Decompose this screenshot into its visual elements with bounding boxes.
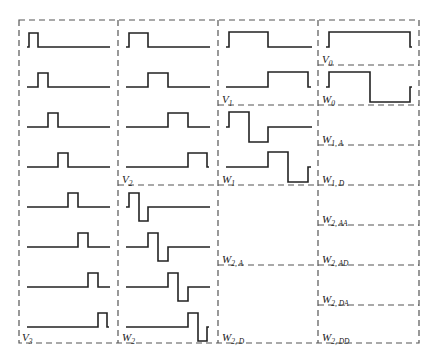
labels: V0 W0 V1 W1 W1, A W1, D V2 W2 W2, A W2, … (22, 53, 350, 346)
v0-w0-waveforms (326, 32, 412, 102)
label-v2: V2 (122, 173, 133, 188)
label-v1: V1 (222, 93, 232, 108)
label-w2d: W2, D (222, 331, 245, 346)
v2-waveforms (126, 33, 210, 167)
label-w1d: W1, D (322, 173, 345, 188)
wavelet-packet-diagram: V0 W0 V1 W1 W1, A W1, D V2 W2 W2, A W2, … (0, 0, 437, 360)
w1-waveforms (226, 112, 312, 182)
label-w0: W0 (322, 93, 335, 108)
v1-waveforms (226, 32, 312, 87)
label-w2da: W2, DA (322, 293, 349, 308)
label-v0: V0 (322, 53, 333, 68)
label-w1a: W1, A (322, 133, 344, 148)
outer-border (19, 20, 419, 343)
label-w2: W2 (122, 331, 135, 346)
label-w2ad: W2, AD (322, 253, 349, 268)
v3-waveforms (27, 33, 110, 327)
label-w2dd: W2, DD (322, 331, 350, 346)
label-w2aa: W2, AA (322, 213, 348, 228)
label-w1: W1 (222, 173, 235, 188)
label-v3: V3 (22, 331, 33, 346)
w2-waveforms (126, 193, 210, 341)
label-w2a: W2, A (222, 253, 244, 268)
